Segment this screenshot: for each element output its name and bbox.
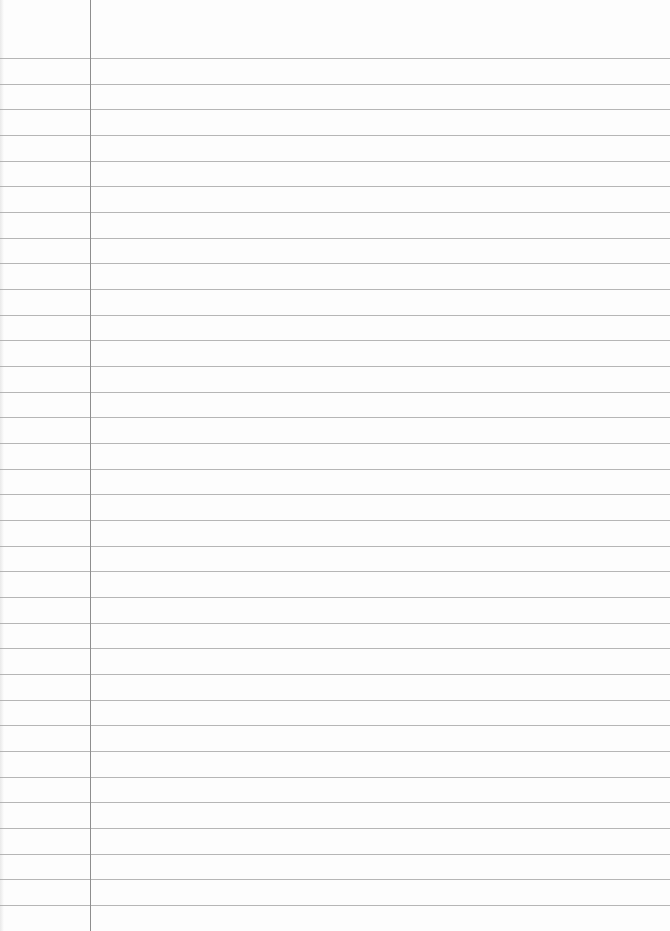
ruled-line bbox=[0, 546, 670, 547]
ruled-line bbox=[0, 366, 670, 367]
ruled-line bbox=[0, 58, 670, 59]
ruled-line bbox=[0, 315, 670, 316]
ruled-line bbox=[0, 623, 670, 624]
margin-line bbox=[90, 0, 91, 931]
ruled-line bbox=[0, 469, 670, 470]
ruled-line bbox=[0, 751, 670, 752]
ruled-line bbox=[0, 135, 670, 136]
ruled-line bbox=[0, 725, 670, 726]
ruled-line bbox=[0, 905, 670, 906]
ruled-line bbox=[0, 392, 670, 393]
ruled-line bbox=[0, 494, 670, 495]
ruled-line bbox=[0, 571, 670, 572]
ruled-line bbox=[0, 597, 670, 598]
ruled-line bbox=[0, 443, 670, 444]
ruled-line bbox=[0, 802, 670, 803]
ruled-line bbox=[0, 879, 670, 880]
ruled-line bbox=[0, 417, 670, 418]
ruled-line bbox=[0, 109, 670, 110]
ruled-line bbox=[0, 263, 670, 264]
lined-paper bbox=[0, 0, 670, 931]
ruled-line bbox=[0, 186, 670, 187]
ruled-line bbox=[0, 520, 670, 521]
ruled-line bbox=[0, 212, 670, 213]
ruled-line bbox=[0, 648, 670, 649]
ruled-line bbox=[0, 777, 670, 778]
paper-left-edge bbox=[0, 0, 4, 931]
ruled-line bbox=[0, 828, 670, 829]
ruled-line bbox=[0, 340, 670, 341]
ruled-line bbox=[0, 854, 670, 855]
ruled-line bbox=[0, 84, 670, 85]
ruled-line bbox=[0, 238, 670, 239]
ruled-line bbox=[0, 700, 670, 701]
ruled-line bbox=[0, 289, 670, 290]
ruled-line bbox=[0, 674, 670, 675]
ruled-line bbox=[0, 161, 670, 162]
